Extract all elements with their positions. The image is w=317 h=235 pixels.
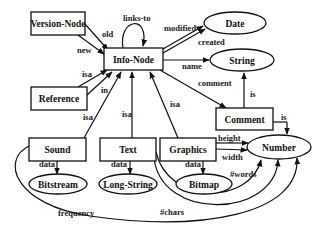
- label-isa-sound: isa: [83, 112, 94, 122]
- edge-links-to: [122, 24, 144, 48]
- svg-text:Version-Node: Version-Node: [30, 19, 85, 29]
- label-data-graphics: data: [185, 159, 202, 169]
- label-words: #words: [230, 169, 257, 179]
- node-text[interactable]: Text: [100, 138, 156, 161]
- svg-text:String: String: [229, 56, 255, 66]
- label-links-to: links-to: [123, 13, 150, 23]
- svg-text:Bitstream: Bitstream: [38, 180, 78, 190]
- label-chars: #chars: [160, 207, 185, 217]
- node-version-node[interactable]: Version-Node: [30, 12, 85, 35]
- edge-isa-sound: [84, 72, 121, 138]
- label-name: name: [182, 61, 202, 71]
- node-sound[interactable]: Sound: [29, 138, 86, 161]
- label-is-string: is: [250, 89, 256, 99]
- svg-text:Reference: Reference: [39, 94, 79, 104]
- schema-diagram: Version-Node Info-Node Date String Refer…: [0, 0, 317, 235]
- node-long-string[interactable]: Long-String: [99, 174, 157, 194]
- label-data-sound: data: [39, 159, 56, 169]
- label-data-text: data: [111, 159, 128, 169]
- label-modified: modified: [164, 23, 196, 33]
- node-number[interactable]: Number: [247, 135, 311, 159]
- svg-text:Date: Date: [226, 19, 245, 29]
- svg-text:Text: Text: [119, 145, 137, 155]
- label-created: created: [198, 37, 225, 47]
- label-isa-text: isa: [122, 109, 133, 119]
- label-width: width: [222, 152, 243, 162]
- label-old: old: [102, 29, 114, 39]
- label-height: height: [218, 133, 241, 143]
- label-new: new: [77, 45, 93, 55]
- node-comment[interactable]: Comment: [216, 108, 273, 130]
- svg-text:Graphics: Graphics: [169, 145, 207, 155]
- node-bitstream[interactable]: Bitstream: [29, 174, 87, 194]
- svg-text:Long-String: Long-String: [103, 180, 153, 190]
- node-date[interactable]: Date: [204, 12, 266, 34]
- label-frequency: frequency: [58, 208, 95, 218]
- svg-text:Sound: Sound: [45, 145, 72, 155]
- label-isa-reference: isa: [82, 69, 93, 79]
- label-comment: comment: [198, 78, 232, 88]
- node-info-node[interactable]: Info-Node: [104, 48, 163, 70]
- svg-text:Bitmap: Bitmap: [189, 180, 219, 190]
- svg-text:Comment: Comment: [224, 115, 265, 125]
- node-bitmap[interactable]: Bitmap: [176, 174, 232, 194]
- node-graphics[interactable]: Graphics: [160, 138, 216, 161]
- node-string[interactable]: String: [210, 49, 274, 71]
- label-in: in: [101, 85, 108, 95]
- label-isa-graphics: isa: [170, 99, 181, 109]
- label-is-number: is: [281, 112, 287, 122]
- svg-text:Number: Number: [262, 143, 297, 153]
- node-reference[interactable]: Reference: [31, 87, 87, 110]
- svg-text:Info-Node: Info-Node: [113, 55, 154, 65]
- edge-width: [216, 149, 247, 150]
